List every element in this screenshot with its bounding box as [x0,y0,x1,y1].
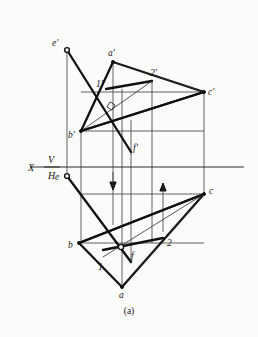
label-c: c [209,186,214,196]
label-f-prime: f' [133,143,139,153]
point-marker-cprime [203,91,206,94]
label-one: 1 [98,262,103,272]
label-e-prime: e' [52,38,59,48]
front-view-group [65,48,206,152]
point-marker-f [118,244,123,249]
triangle-abc-top [79,194,204,287]
label-v-plane: V [48,154,56,165]
label-c-prime: c' [208,87,215,97]
figure-caption: (a) [0,306,258,316]
point-marker-bprime [80,130,83,133]
point-marker-eprime [65,48,70,53]
top-view-group [65,174,206,289]
label-a: a [119,290,124,300]
label-x-axis: X [27,162,35,173]
triangle-abc-front [81,62,204,131]
label-one-prime: 1' [96,79,104,89]
label-two-prime: 2' [150,68,158,78]
label-b: b [68,240,73,250]
point-marker-a [121,286,124,289]
label-two: 2 [167,238,172,248]
projection-drawing: X V H e' a' c' b' 1' 2' f' e b c a 1 2 f [0,0,258,337]
point-marker-b [78,242,81,245]
line-12-top [103,238,163,250]
label-a-prime: a' [108,48,116,58]
edge-bprime-cprime [81,92,204,131]
label-f: f [131,251,135,261]
label-b-prime: b' [68,130,76,140]
point-marker-c [203,193,206,196]
label-e: e [55,172,59,182]
figure-page: X V H e' a' c' b' 1' 2' f' e b c a 1 2 f… [0,0,258,337]
labels-group: X V H e' a' c' b' 1' 2' f' e b c a 1 2 f [27,38,215,300]
point-marker-e [65,174,70,179]
point-marker-aprime [112,61,115,64]
crossing-mark-front [107,102,115,110]
aux-line-aprime-cprime [113,62,204,92]
